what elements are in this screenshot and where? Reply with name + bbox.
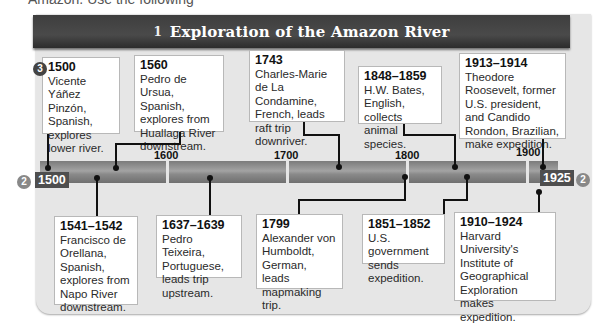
connector-1637 xyxy=(209,178,211,215)
event-text: U.S. government sends expedition. xyxy=(368,232,429,285)
connector-1743-v2 xyxy=(338,134,340,165)
marker-1913 xyxy=(540,164,546,170)
connector-1799-h xyxy=(298,199,406,201)
event-1910-1924: 1910–1924 Harvard University's Institute… xyxy=(454,212,556,301)
tick-1800: 1800 xyxy=(395,149,419,161)
tick-1700: 1700 xyxy=(274,149,298,161)
event-1913-1914: 1913–1914 Theodore Roosevelt, former U.S… xyxy=(459,53,566,139)
tick-1900: 1900 xyxy=(516,146,540,158)
event-1560: 1560 Pedro de Ursua, Spanish, explores f… xyxy=(134,55,224,132)
connector-1851-v2 xyxy=(443,199,445,214)
timeline-header: 1 Exploration of the Amazon River xyxy=(33,15,570,48)
event-year: 1541–1542 xyxy=(60,220,132,234)
event-1799: 1799 Alexander von Humboldt, German, lea… xyxy=(256,214,343,289)
event-year: 1799 xyxy=(262,218,337,232)
event-1541-1542: 1541–1542 Francisco de Orellana, Spanish… xyxy=(54,216,138,305)
marker-1848 xyxy=(452,164,458,170)
page-title: Exploration of the Amazon River xyxy=(170,23,450,41)
event-text: Pedro Teixeira, Portuguese, leads trip u… xyxy=(162,233,224,299)
event-1743: 1743 Charles-Marie de La Condamine, Fren… xyxy=(249,50,345,122)
connector-1560-v2 xyxy=(115,143,117,166)
callout-2-left-icon: 2 xyxy=(17,175,31,189)
callout-3-icon: 3 xyxy=(33,62,47,76)
timeline-segment-1600-1700 xyxy=(169,161,286,183)
event-1848-1859: 1848–1859 H.W. Bates, English, collects … xyxy=(358,66,442,124)
connector-1560-h xyxy=(115,143,181,145)
event-text: H.W. Bates, English, collects animal spe… xyxy=(364,84,425,150)
connector-1848-h xyxy=(403,134,455,136)
event-year: 1637–1639 xyxy=(162,219,236,233)
connector-1913 xyxy=(542,139,544,166)
connector-1743-h xyxy=(303,134,339,136)
event-year: 1500 xyxy=(48,61,114,75)
event-year: 1848–1859 xyxy=(364,70,436,84)
connector-1851-v1 xyxy=(466,177,468,200)
marker-1500 xyxy=(45,165,51,171)
event-text: Alexander von Humboldt, German, leads ma… xyxy=(262,232,336,312)
connector-1500 xyxy=(47,134,49,168)
event-year: 1560 xyxy=(140,59,218,73)
event-text: Francisco de Orellana, Spanish, explores… xyxy=(60,234,130,314)
event-text: Pedro de Ursua, Spanish, explores from H… xyxy=(140,73,215,153)
timeline-end-label: 1925 xyxy=(540,170,574,186)
event-year: 1913–1914 xyxy=(465,57,560,71)
connector-1851-h xyxy=(443,199,468,201)
connector-1799-v2 xyxy=(298,199,300,214)
event-text: Harvard University's Institute of Geogra… xyxy=(460,230,528,323)
cropped-instruction-text: Amazon. Use the following xyxy=(28,0,194,7)
connector-1799-v1 xyxy=(404,177,406,200)
connector-1910 xyxy=(538,192,540,212)
event-text: Theodore Roosevelt, former U.S. presiden… xyxy=(465,71,559,151)
timeline-segment-1700-1800 xyxy=(289,161,406,183)
event-year: 1851–1852 xyxy=(368,218,439,232)
event-1637-1639: 1637–1639 Pedro Teixeira, Portuguese, le… xyxy=(156,215,242,278)
event-year: 1743 xyxy=(255,54,339,68)
marker-1560 xyxy=(113,165,119,171)
connector-1848-v2 xyxy=(454,134,456,166)
event-text: Vicente Yáñez Pinzón, Spanish, explores … xyxy=(48,75,104,155)
timeline-start-label: 1500 xyxy=(35,172,69,188)
tick-1600: 1600 xyxy=(154,149,178,161)
event-1500: 1500 Vicente Yáñez Pinzón, Spanish, expl… xyxy=(42,57,120,134)
callout-2-right-icon: 2 xyxy=(576,173,590,187)
connector-1541 xyxy=(96,178,98,216)
header-number: 1 xyxy=(154,25,162,39)
event-1851-1852: 1851–1852 U.S. government sends expediti… xyxy=(362,214,445,264)
event-year: 1910–1924 xyxy=(460,216,550,230)
marker-1743 xyxy=(336,164,342,170)
